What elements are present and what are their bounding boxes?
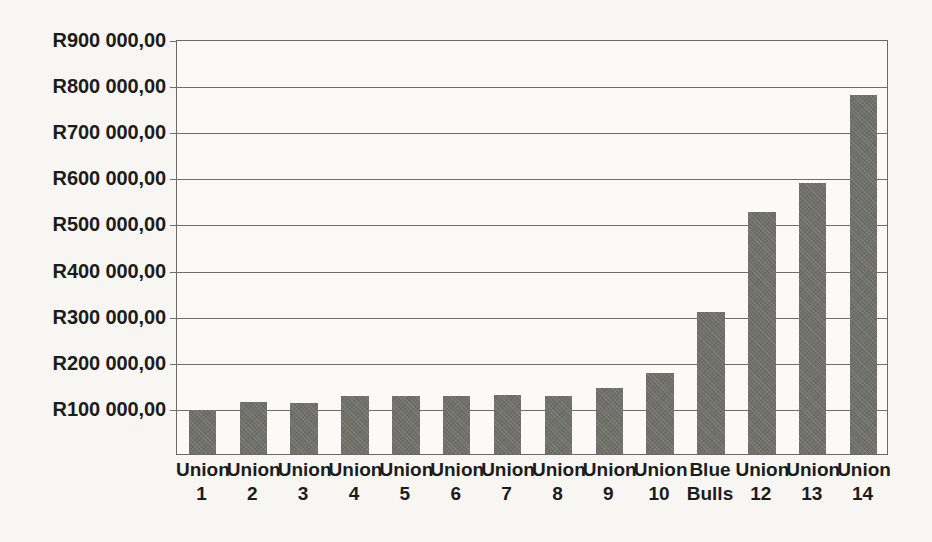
y-axis-tick-mark xyxy=(170,364,177,365)
x-axis-tick-label: Union8 xyxy=(532,458,583,506)
y-axis-tick-label: R100 000,00 xyxy=(53,397,166,420)
y-axis-tick-label: R600 000,00 xyxy=(53,167,166,190)
y-axis-tick-mark xyxy=(170,87,177,88)
y-axis-tick-mark xyxy=(170,225,177,226)
bar xyxy=(850,95,877,454)
x-axis-tick-label: Union14 xyxy=(837,458,888,506)
y-axis-tick-label: R400 000,00 xyxy=(53,259,166,282)
y-axis-tick-label: R800 000,00 xyxy=(53,75,166,98)
x-axis-tick-label: Union10 xyxy=(634,458,685,506)
bar xyxy=(290,403,317,454)
y-axis-tick-mark xyxy=(170,272,177,273)
y-axis-tick-label: R200 000,00 xyxy=(53,351,166,374)
y-axis: R100 000,00R200 000,00R300 000,00R400 00… xyxy=(0,0,176,542)
y-axis-tick-mark xyxy=(170,41,177,42)
y-axis-tick-label: R500 000,00 xyxy=(53,213,166,236)
x-axis-tick-label: Union5 xyxy=(379,458,430,506)
bar xyxy=(596,388,623,454)
bar xyxy=(697,312,724,454)
bar xyxy=(189,410,216,454)
plot-area xyxy=(176,40,888,455)
x-axis-tick-label: Union13 xyxy=(786,458,837,506)
bar xyxy=(341,396,368,454)
x-axis-tick-label: Union4 xyxy=(329,458,380,506)
y-axis-tick-mark xyxy=(170,179,177,180)
x-axis-tick-label: Union1 xyxy=(176,458,227,506)
y-axis-tick-mark xyxy=(170,133,177,134)
x-axis-tick-label: Union6 xyxy=(430,458,481,506)
y-axis-tick-label: R700 000,00 xyxy=(53,121,166,144)
bar xyxy=(646,373,673,454)
y-axis-tick-label: R900 000,00 xyxy=(53,29,166,52)
x-axis-tick-label: Union3 xyxy=(278,458,329,506)
x-axis-tick-label: BlueBulls xyxy=(685,458,736,506)
bar-chart-figure: R100 000,00R200 000,00R300 000,00R400 00… xyxy=(0,0,932,542)
x-axis: Union1Union2Union3Union4Union5Union6Unio… xyxy=(176,458,888,528)
bar xyxy=(240,402,267,454)
bar xyxy=(748,212,775,454)
y-axis-tick-label: R300 000,00 xyxy=(53,305,166,328)
y-axis-tick-mark xyxy=(170,318,177,319)
bar xyxy=(392,396,419,454)
bar xyxy=(443,396,470,454)
y-axis-tick-mark xyxy=(170,410,177,411)
x-axis-tick-label: Union9 xyxy=(583,458,634,506)
x-axis-tick-label: Union12 xyxy=(735,458,786,506)
bar xyxy=(494,395,521,454)
x-axis-tick-label: Union7 xyxy=(481,458,532,506)
bars-group xyxy=(177,41,887,454)
bar xyxy=(545,396,572,454)
x-axis-tick-label: Union2 xyxy=(227,458,278,506)
bar xyxy=(799,183,826,454)
